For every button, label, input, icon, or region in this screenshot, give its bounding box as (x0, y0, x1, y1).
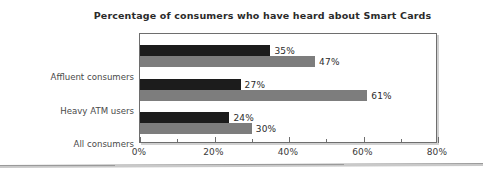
bar-series1 (140, 45, 270, 56)
bar-series1 (140, 112, 229, 123)
x-axis-tick-label: 20% (203, 147, 224, 157)
bar-value-label: 30% (256, 123, 277, 133)
plot-inner: 35% 47% 27% 61% 24% (140, 34, 436, 142)
bar-value-label: 24% (233, 112, 254, 122)
x-axis-major-tick (289, 137, 290, 143)
x-axis-major-tick (364, 137, 365, 143)
bar-series1 (140, 79, 241, 90)
bottom-divider (0, 163, 483, 168)
x-axis-minor-tick (401, 139, 402, 143)
bar-row: 47% (140, 56, 436, 67)
x-axis-tick-label: 60% (352, 147, 373, 157)
bar-value-label: 35% (274, 45, 295, 55)
bar-series2 (140, 123, 252, 134)
x-axis-tick-label: 0% (132, 147, 147, 157)
bar-value-label: 61% (371, 90, 392, 100)
bar-series2 (140, 56, 315, 67)
bar-value-label: 47% (319, 56, 340, 66)
bar-row: 24% (140, 112, 436, 123)
category-label: All consumers (4, 139, 134, 149)
bar-series2 (140, 90, 367, 101)
category-label: Affluent consumers (4, 72, 134, 82)
bar-group: 35% 47% (140, 45, 436, 69)
bar-row: 61% (140, 90, 436, 101)
chart-title: Percentage of consumers who have heard a… (0, 10, 483, 21)
x-axis-tick-label: 80% (427, 147, 448, 157)
bar-value-label: 27% (245, 79, 266, 89)
bar-row: 30% (140, 123, 436, 134)
x-axis-major-tick (438, 137, 439, 143)
x-axis-minor-tick (326, 139, 327, 143)
x-axis-minor-tick (252, 139, 253, 143)
plot-area: 35% 47% 27% 61% 24% (139, 33, 437, 143)
bar-group: 27% 61% (140, 79, 436, 103)
bar-row: 35% (140, 45, 436, 56)
x-axis-tick-label: 40% (278, 147, 299, 157)
bar-group: 24% 30% (140, 112, 436, 136)
x-axis-major-tick (140, 137, 141, 143)
bar-row: 27% (140, 79, 436, 90)
x-axis-major-tick (215, 137, 216, 143)
category-label: Heavy ATM users (4, 106, 134, 116)
x-axis-minor-tick (177, 139, 178, 143)
